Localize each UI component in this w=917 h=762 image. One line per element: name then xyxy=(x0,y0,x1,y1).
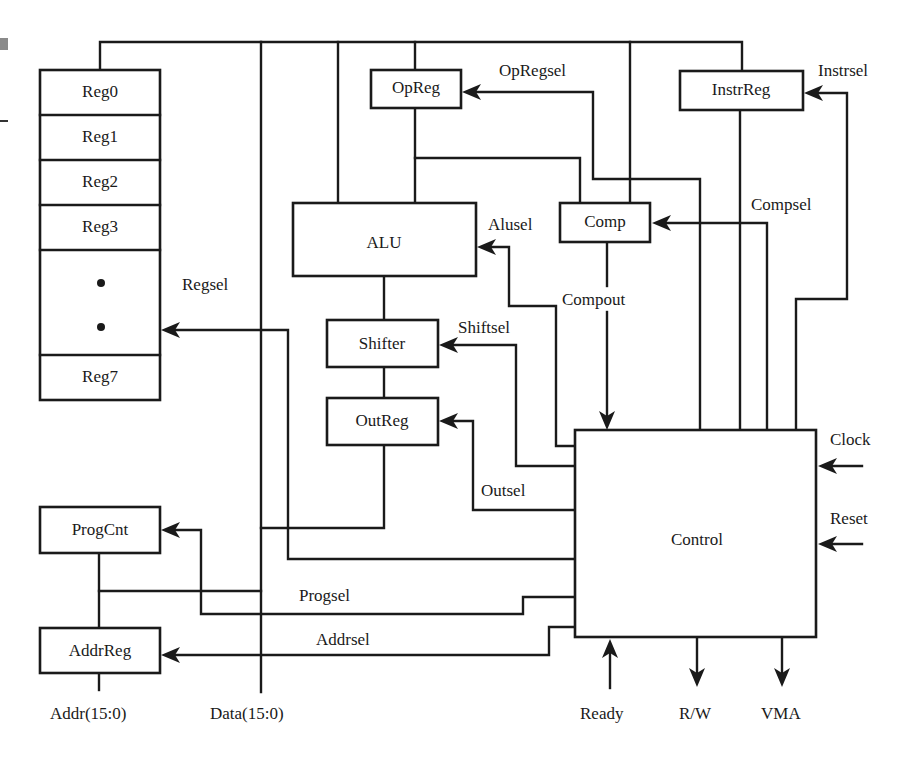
compsel-label: Compsel xyxy=(751,195,812,214)
outsel-label: Outsel xyxy=(481,481,526,500)
comp-label: Comp xyxy=(584,212,626,231)
alu-block: ALU xyxy=(293,203,476,276)
compout-label: Compout xyxy=(562,290,626,309)
opreg-comp-wire xyxy=(415,158,580,203)
reg0-label: Reg0 xyxy=(82,82,118,101)
comp-block: Comp xyxy=(560,203,650,242)
vma-label: VMA xyxy=(761,704,801,723)
opregsel-label: OpRegsel xyxy=(499,61,566,80)
progcnt-block: ProgCnt xyxy=(40,507,160,553)
shifter-label: Shifter xyxy=(359,334,406,353)
ready-label: Ready xyxy=(580,704,624,723)
instrsel-label: Instrsel xyxy=(818,61,868,80)
instrreg-label: InstrReg xyxy=(712,80,771,99)
addrreg-block: AddrReg xyxy=(40,628,160,673)
processor-block-diagram: Reg0 Reg1 Reg2 Reg3 Reg7 OpReg InstrReg … xyxy=(0,0,917,762)
regsel-label: Regsel xyxy=(182,275,229,294)
reg7-label: Reg7 xyxy=(82,367,118,386)
control-label: Control xyxy=(671,530,723,549)
outreg-block: OutReg xyxy=(327,398,438,445)
opreg-label: OpReg xyxy=(392,78,441,97)
rw-label: R/W xyxy=(679,704,712,723)
reg2-label: Reg2 xyxy=(82,172,118,191)
opregsel-wire xyxy=(470,92,700,430)
shifter-block: Shifter xyxy=(327,320,438,367)
progsel-label: Progsel xyxy=(299,586,350,605)
addrsel-wire xyxy=(170,627,575,655)
control-block: Control xyxy=(575,430,816,637)
progcnt-label: ProgCnt xyxy=(72,520,129,539)
opreg-block: OpReg xyxy=(371,70,461,108)
addrreg-label: AddrReg xyxy=(69,641,132,660)
addrsel-label: Addrsel xyxy=(316,630,370,649)
reset-label: Reset xyxy=(830,509,868,528)
ellipsis-dot-icon xyxy=(97,323,105,331)
progsel-wire xyxy=(170,530,575,614)
alusel-wire xyxy=(485,247,575,446)
data-bus-label: Data(15:0) xyxy=(210,704,284,723)
outreg-data-wire xyxy=(261,445,384,528)
ellipsis-dot-icon xyxy=(97,279,105,287)
outreg-label: OutReg xyxy=(356,411,409,430)
alu-label: ALU xyxy=(367,233,402,252)
clock-label: Clock xyxy=(830,430,871,449)
reg1-label: Reg1 xyxy=(82,127,118,146)
reg3-label: Reg3 xyxy=(82,217,118,236)
compsel-wire xyxy=(660,223,767,430)
instrreg-bus-wire xyxy=(630,42,742,71)
register-file: Reg0 Reg1 Reg2 Reg3 Reg7 xyxy=(40,70,160,400)
addr-bus-label: Addr(15:0) xyxy=(50,704,126,723)
instrsel-wire xyxy=(796,93,847,430)
shiftsel-label: Shiftsel xyxy=(458,318,510,337)
instrreg-block: InstrReg xyxy=(680,71,803,110)
alusel-label: Alusel xyxy=(488,215,533,234)
